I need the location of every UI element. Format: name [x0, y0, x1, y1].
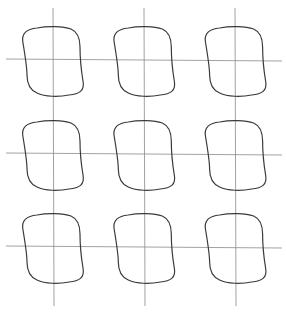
horizontal-axis-row-2 [6, 153, 282, 155]
vertical-axis-col-1 [53, 8, 54, 306]
hysteresis-loop-r3-c2 [114, 214, 175, 284]
vertical-axis-col-2 [144, 8, 145, 306]
hysteresis-loop-r3-c1 [23, 214, 84, 284]
loop-grid-canvas [0, 0, 286, 314]
hysteresis-loop-r2-c1 [23, 121, 84, 191]
hysteresis-diagram [0, 0, 286, 314]
vertical-axis-col-3 [235, 8, 236, 306]
horizontal-axis-row-3 [6, 246, 282, 248]
